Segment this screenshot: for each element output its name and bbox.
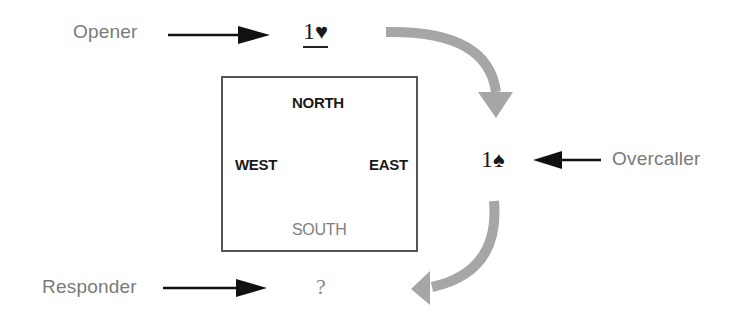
opener-pointer-arrow-icon [168,26,270,44]
overcaller-bid: 1♠ [481,146,505,173]
bridge-table: NORTH WEST EAST SOUTH [221,76,418,252]
overcaller-label: Overcaller [612,148,701,170]
overcaller-pointer-arrow-icon [533,151,601,169]
opener-bid-level: 1 [303,18,315,44]
responder-pointer-arrow-icon [163,279,267,297]
south-label: SOUTH [292,221,347,239]
west-label: WEST [235,156,277,173]
north-label: NORTH [292,94,344,111]
opener-bid: 1♥ [303,18,328,48]
spade-suit-icon: ♠ [493,147,505,172]
overcaller-bid-level: 1 [481,146,493,172]
opener-label: Opener [73,21,138,43]
responder-label: Responder [42,276,137,298]
heart-suit-icon: ♥ [315,19,328,44]
curved-arrow-to-responder-icon [411,201,494,305]
east-label: EAST [369,156,408,173]
responder-bid: ? [316,274,326,300]
